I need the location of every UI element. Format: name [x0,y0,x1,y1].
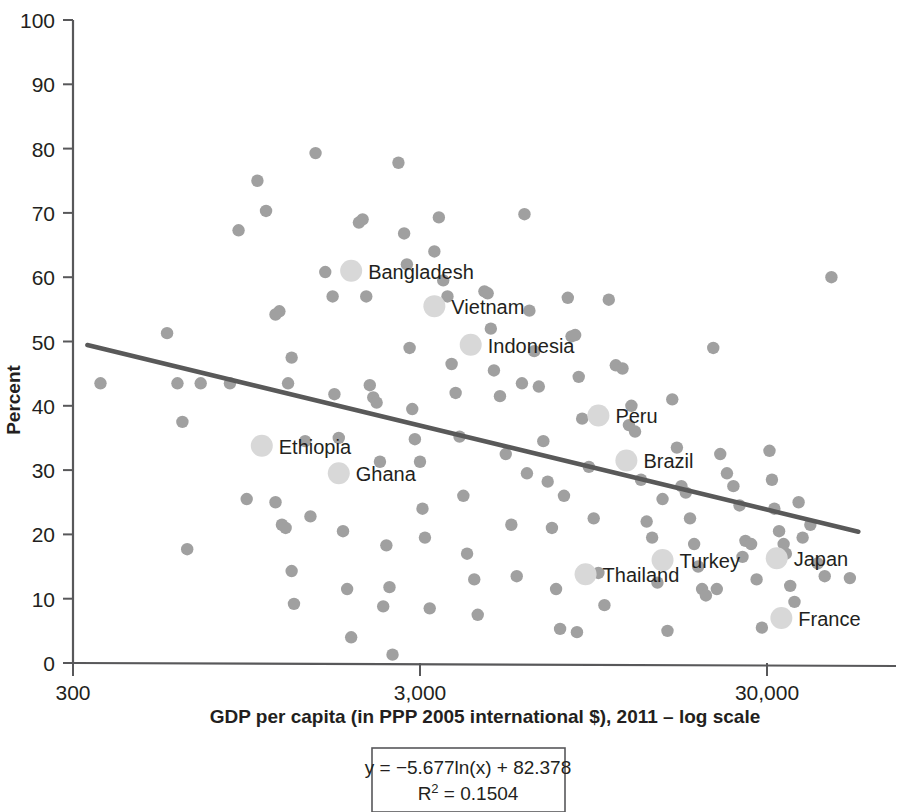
data-point [457,490,469,502]
country-label: Peru [615,405,657,427]
highlighted-data-point [615,449,637,471]
y-tick-label: 90 [32,73,55,96]
y-tick-label: 80 [32,138,55,161]
country-label: Vietnam [451,296,524,318]
data-point [541,475,553,487]
x-tick-label: 3,000 [394,681,447,704]
data-point [745,538,757,550]
country-label: Bangladesh [368,261,474,283]
country-label: Ghana [356,463,417,485]
trendline-layer [87,345,858,532]
data-point [656,493,668,505]
data-point [494,390,506,402]
data-point [472,609,484,621]
data-point [505,519,517,531]
y-axis-ticks: 0102030405060708090100 [20,9,73,675]
x-axis-line [73,663,896,666]
data-point [518,208,530,220]
r-squared-prefix: R [418,783,432,804]
data-point [345,631,357,643]
data-point [521,467,533,479]
highlighted-data-point [460,334,482,356]
data-point [511,570,523,582]
data-point [241,493,253,505]
data-point [161,327,173,339]
y-tick-label: 60 [32,266,55,289]
data-point [684,512,696,524]
data-point [516,377,528,389]
data-point [171,377,183,389]
data-point [380,539,392,551]
data-point [282,377,294,389]
data-point [194,377,206,389]
data-point [603,294,615,306]
data-point [763,445,775,457]
data-point [819,570,831,582]
trendline [87,345,858,532]
data-point [488,364,500,376]
country-label: Japan [794,548,849,570]
data-point [844,572,856,584]
data-point [326,290,338,302]
data-point [616,362,628,374]
data-point [251,175,263,187]
data-point [328,388,340,400]
data-point [181,543,193,555]
data-point [337,525,349,537]
equation-box: y = −5.677ln(x) + 82.378 R2 = 0.1504 [365,748,572,812]
data-point [688,538,700,550]
data-point [406,403,418,415]
data-point [700,589,712,601]
r-squared-rest: = 0.1504 [439,783,519,804]
highlighted-data-point [770,607,792,629]
data-point [550,583,562,595]
y-tick-label: 20 [32,523,55,546]
country-label: Thailand [603,564,680,586]
data-point [449,387,461,399]
data-points-layer [94,147,856,661]
data-point [176,416,188,428]
x-axis-title: GDP per capita (in PPP 2005 internationa… [210,706,761,727]
y-tick-label: 0 [43,652,55,675]
data-point [398,227,410,239]
data-point [576,412,588,424]
highlighted-data-point [587,404,609,426]
highlighted-data-point [340,260,362,282]
data-point [279,522,291,534]
scatter-chart: 0102030405060708090100 3003,00030,000 Ba… [0,0,898,812]
data-point [360,290,372,302]
data-point [646,531,658,543]
chart-plot-area: 0102030405060708090100 3003,00030,000 Ba… [0,0,898,812]
y-tick-label: 40 [32,395,55,418]
data-point [573,371,585,383]
r-squared-superscript: 2 [431,781,438,796]
data-point [784,580,796,592]
data-point [319,266,331,278]
data-point [304,510,316,522]
y-tick-label: 70 [32,202,55,225]
data-point [461,547,473,559]
data-point [386,648,398,660]
data-point [714,448,726,460]
data-point [721,467,733,479]
data-point [424,602,436,614]
data-point [756,621,768,633]
data-point [94,377,106,389]
data-point [523,304,535,316]
data-point [558,490,570,502]
data-point [750,573,762,585]
data-point [273,305,285,317]
data-point [727,480,739,492]
country-label: Ethiopia [279,436,352,458]
data-point [588,512,600,524]
data-point [370,396,382,408]
data-point [445,358,457,370]
data-point [707,342,719,354]
x-tick-label: 30,000 [735,681,799,704]
data-point [773,525,785,537]
highlighted-data-point [423,295,445,317]
data-point [661,625,673,637]
data-point [285,565,297,577]
data-point [341,583,353,595]
data-point [377,600,389,612]
